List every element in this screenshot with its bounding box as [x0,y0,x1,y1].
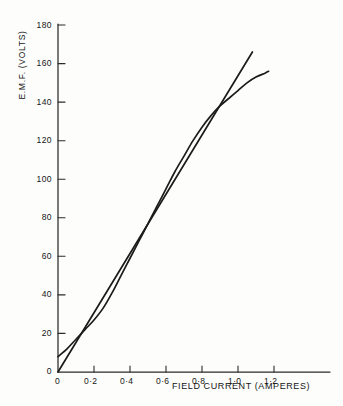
y-tick-label-40: 40 [26,289,52,299]
y-tick-label-180: 180 [26,20,52,30]
field-resistance-line [58,52,252,372]
x-axis-title: FIELD CURRENT (AMPERES) [172,381,310,391]
y-tick-label-100: 100 [26,174,52,184]
y-axis-ticks [58,25,65,333]
open-circuit-characteristic-curve [58,71,269,356]
y-tick-label-140: 140 [26,97,52,107]
x-tick-label-0-2: 0·2 [84,376,98,386]
y-tick-label-0: 0 [26,366,52,376]
y-tick-label-80: 80 [26,212,52,222]
y-tick-label-20: 20 [26,328,52,338]
x-axis-ticks [94,366,274,372]
y-axis-title: E.M.F. (VOLTS) [17,17,27,113]
x-tick-label-0-6: 0·6 [156,376,170,386]
y-tick-label-160: 160 [26,58,52,68]
x-tick-label-0: 0 [55,376,60,386]
x-tick-label-0-4: 0·4 [120,376,134,386]
y-tick-label-120: 120 [26,135,52,145]
figure-container: 180 160 140 120 100 80 60 40 20 0 0 0·2 … [0,0,343,406]
y-tick-label-60: 60 [26,251,52,261]
